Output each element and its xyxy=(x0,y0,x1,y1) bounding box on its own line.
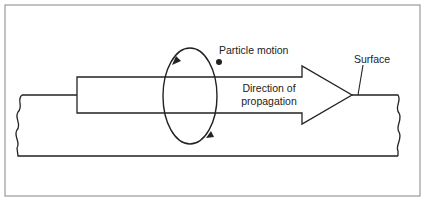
surface-leader-line xyxy=(358,65,363,95)
surface-label: Surface xyxy=(354,53,390,65)
surface-block xyxy=(16,95,400,156)
particle-dot xyxy=(216,59,222,65)
direction-label-line1: Direction of xyxy=(238,82,300,94)
rayleigh-wave-diagram: Particle motion Direction of propagation… xyxy=(0,0,423,209)
outer-frame xyxy=(5,5,420,196)
particle-orbit xyxy=(163,48,222,144)
particle-motion-label: Particle motion xyxy=(219,44,288,56)
direction-label-line2: propagation xyxy=(238,95,300,107)
diagram-canvas xyxy=(0,0,423,209)
